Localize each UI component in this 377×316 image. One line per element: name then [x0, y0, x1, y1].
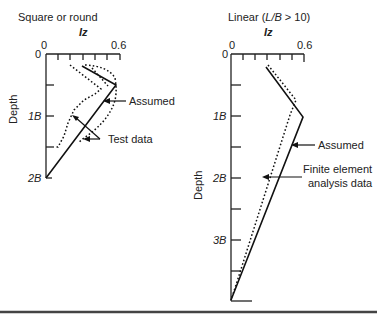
left-panel-title: Square or round — [18, 11, 98, 23]
right-assumed-curve — [231, 67, 303, 300]
right-fem-curve — [231, 65, 296, 300]
right-x-tick-0: 0 — [229, 39, 235, 51]
right-panel: Linear (L/B > 10) Iz 0 0.6 0 1B 2B 3B De… — [192, 11, 373, 301]
left-y-axis-label: Depth — [7, 95, 19, 124]
right-y-tick-1B: 1B — [213, 110, 226, 122]
right-y-tick-3B: 3B — [213, 234, 226, 246]
right-fem-label-line2: analysis data — [308, 177, 373, 189]
right-assumed-arrow — [291, 142, 315, 148]
right-x-tick-0-6: 0.6 — [297, 39, 312, 51]
left-assumed-label: Assumed — [129, 95, 175, 107]
right-fem-label-line1: Finite element — [303, 163, 372, 175]
left-x-tick-0-6: 0.6 — [111, 39, 126, 51]
right-x-axis-label: Iz — [264, 26, 273, 38]
left-x-tick-0: 0 — [41, 39, 47, 51]
right-fem-arrow — [262, 174, 302, 180]
left-axes — [46, 54, 120, 178]
left-y-tick-0: 0 — [35, 48, 41, 60]
left-test-data-label: Test data — [108, 133, 154, 145]
left-panel: Square or round Iz 0 0.6 0 1B 2B Depth — [7, 11, 175, 184]
left-x-axis-label: Iz — [79, 26, 88, 38]
right-y-tick-2B: 2B — [212, 172, 226, 184]
right-y-axis-label: Depth — [192, 171, 204, 200]
right-panel-title: Linear (L/B > 10) — [228, 11, 310, 23]
strain-influence-diagram: Square or round Iz 0 0.6 0 1B 2B Depth — [0, 0, 377, 316]
left-y-tick-1B: 1B — [28, 110, 41, 122]
left-test-data-curve-2 — [79, 65, 116, 142]
right-y-tick-0: 0 — [222, 48, 228, 60]
right-assumed-label: Assumed — [318, 139, 364, 151]
left-y-tick-2B: 2B — [27, 172, 41, 184]
